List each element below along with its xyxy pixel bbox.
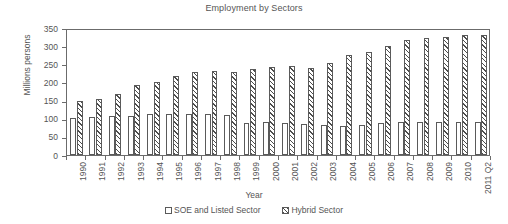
x-tick-label: 2008 [426, 162, 435, 181]
x-tick-mark [451, 156, 452, 160]
y-tick-label: 350 [30, 25, 58, 34]
bar-soe [378, 123, 384, 155]
bar-soe [475, 122, 481, 155]
bar-hybrid [481, 35, 487, 155]
x-tick-mark [355, 156, 356, 160]
bar-hybrid [77, 101, 83, 155]
bar-soe [128, 116, 134, 155]
legend-label-soe: SOE and Listed Sector [174, 205, 260, 215]
bar-soe [186, 114, 192, 155]
x-tick-label: 1997 [214, 162, 223, 181]
chart-legend: SOE and Listed Sector Hybrid Sector [0, 205, 508, 215]
bar-hybrid [424, 38, 430, 155]
x-tick-label: 1992 [117, 162, 126, 181]
x-tick-mark [374, 156, 375, 160]
x-tick-label: 1990 [79, 162, 88, 181]
x-tick-mark [297, 156, 298, 160]
bar-hybrid [327, 63, 333, 155]
y-tick-label: 150 [30, 97, 58, 106]
bar-soe [398, 122, 404, 155]
x-tick-label: 2004 [349, 162, 358, 181]
x-tick-mark [413, 156, 414, 160]
x-tick-label: 1994 [156, 162, 165, 181]
y-tick-label: 200 [30, 79, 58, 88]
plot-area [66, 29, 490, 156]
x-tick-label: 2000 [272, 162, 281, 181]
bar-hybrid [250, 69, 256, 155]
x-tick-mark [85, 156, 86, 160]
x-tick-mark [259, 156, 260, 160]
bar-hybrid [192, 72, 198, 155]
x-tick-mark [317, 156, 318, 160]
bar-hybrid [462, 35, 468, 155]
chart-container: Employment by Sectors Millions persons 3… [0, 0, 508, 224]
legend-swatch-soe-icon [165, 207, 172, 214]
x-axis-label: Year [0, 190, 508, 200]
x-tick-label: 2007 [406, 162, 415, 181]
x-tick-label: 1999 [252, 162, 261, 181]
bar-hybrid [385, 46, 391, 155]
x-tick-mark [432, 156, 433, 160]
chart-title: Employment by Sectors [0, 3, 508, 13]
bar-soe [205, 114, 211, 155]
bar-hybrid [115, 94, 121, 155]
legend-label-hybrid: Hybrid Sector [291, 205, 343, 215]
bar-soe [263, 122, 269, 155]
bar-soe [166, 114, 172, 155]
x-tick-label: 1993 [137, 162, 146, 181]
bar-hybrid [173, 76, 179, 155]
x-tick-label: 1991 [98, 162, 107, 181]
x-tick-mark [162, 156, 163, 160]
x-tick-mark [66, 156, 67, 160]
y-tick-label: 50 [30, 133, 58, 142]
y-tick-label: 250 [30, 61, 58, 70]
bar-hybrid [134, 85, 140, 155]
x-tick-label: 1998 [233, 162, 242, 181]
legend-item-hybrid[interactable]: Hybrid Sector [282, 205, 343, 215]
bar-soe [340, 126, 346, 155]
x-tick-mark [201, 156, 202, 160]
bar-hybrid [308, 68, 314, 155]
bar-soe [456, 122, 462, 155]
x-tick-label: 2005 [368, 162, 377, 181]
bar-soe [224, 115, 230, 155]
x-tick-mark [220, 156, 221, 160]
x-tick-label: 2001 [291, 162, 300, 181]
x-tick-label: 2006 [387, 162, 396, 181]
x-tick-label: 1995 [175, 162, 184, 181]
x-tick-mark [490, 156, 491, 160]
bar-hybrid [154, 82, 160, 155]
bar-soe [436, 122, 442, 155]
bar-soe [70, 118, 76, 155]
bar-hybrid [231, 72, 237, 155]
bar-soe [417, 122, 423, 155]
bar-soe [147, 114, 153, 155]
bar-hybrid [269, 67, 275, 155]
x-tick-mark [471, 156, 472, 160]
bar-soe [301, 124, 307, 155]
x-tick-mark [394, 156, 395, 160]
bar-soe [244, 123, 250, 155]
bar-soe [282, 123, 288, 155]
x-tick-mark [336, 156, 337, 160]
x-tick-label: 2009 [445, 162, 454, 181]
x-tick-label: 2003 [329, 162, 338, 181]
bar-hybrid [443, 37, 449, 155]
bar-hybrid [346, 55, 352, 155]
x-tick-mark [182, 156, 183, 160]
bar-hybrid [96, 99, 102, 155]
y-tick-label: 100 [30, 115, 58, 124]
bar-hybrid [404, 40, 410, 155]
x-tick-mark [105, 156, 106, 160]
bar-soe [359, 125, 365, 155]
bar-hybrid [212, 71, 218, 155]
x-tick-label: 2002 [310, 162, 319, 181]
x-tick-mark [143, 156, 144, 160]
legend-item-soe[interactable]: SOE and Listed Sector [165, 205, 260, 215]
bar-hybrid [366, 52, 372, 155]
x-tick-label: 2010 [464, 162, 473, 181]
bar-soe [89, 117, 95, 155]
bar-hybrid [289, 66, 295, 155]
bar-soe [321, 125, 327, 155]
x-tick-mark [124, 156, 125, 160]
